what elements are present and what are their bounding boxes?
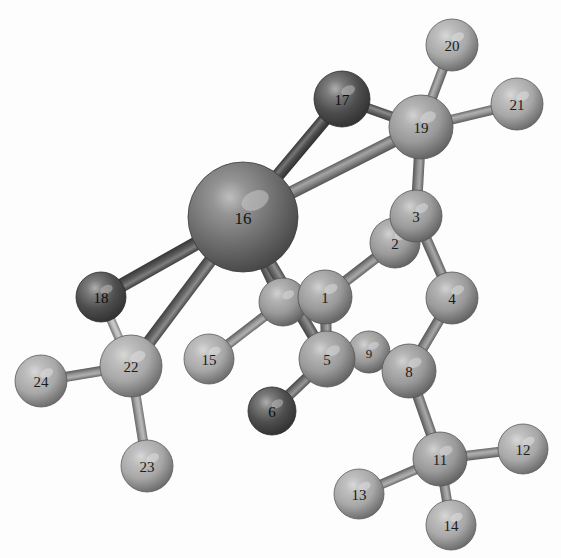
- atom-sphere: [76, 272, 126, 322]
- molecule-canvas: 962181512131420213424231811175221916: [0, 0, 561, 558]
- atom-sphere: [426, 500, 476, 550]
- atom-8: 8: [382, 344, 436, 398]
- atom-sphere: [382, 344, 436, 398]
- atom-sphere: [491, 78, 543, 130]
- atom-sphere: [314, 71, 370, 127]
- atom-19: 19: [389, 95, 453, 159]
- atom-4: 4: [426, 272, 478, 324]
- atom-sphere: [390, 190, 442, 242]
- atom-6: 6: [248, 387, 296, 435]
- atom-18: 18: [76, 272, 126, 322]
- atom-21: 21: [491, 78, 543, 130]
- atom-13: 13: [334, 469, 384, 519]
- atom-16: 16: [188, 162, 298, 272]
- atom-layer: 962181512131420213424231811175221916: [15, 19, 548, 550]
- atom-23: 23: [121, 440, 173, 492]
- atom-15: 15: [184, 334, 234, 384]
- atom-sphere: [389, 95, 453, 159]
- atom-sphere: [498, 424, 548, 474]
- atom-1: 1: [298, 270, 352, 324]
- atom-11: 11: [413, 432, 467, 486]
- atom-sphere: [248, 387, 296, 435]
- atom-sphere: [298, 270, 352, 324]
- atom-sphere: [334, 469, 384, 519]
- atom-sphere: [188, 162, 298, 272]
- atom-5: 5: [299, 331, 355, 387]
- atom-14: 14: [426, 500, 476, 550]
- atom-sphere: [299, 331, 355, 387]
- atom-sphere: [413, 432, 467, 486]
- atom-24: 24: [15, 355, 67, 407]
- atom-sphere: [426, 19, 478, 71]
- atom-sphere: [121, 440, 173, 492]
- atom-3: 3: [390, 190, 442, 242]
- molecular-structure-figure: 962181512131420213424231811175221916: [0, 0, 561, 558]
- atom-sphere: [426, 272, 478, 324]
- atom-12: 12: [498, 424, 548, 474]
- atom-22: 22: [100, 335, 162, 397]
- atom-17: 17: [314, 71, 370, 127]
- atom-sphere: [15, 355, 67, 407]
- atom-20: 20: [426, 19, 478, 71]
- atom-sphere: [184, 334, 234, 384]
- atom-sphere: [100, 335, 162, 397]
